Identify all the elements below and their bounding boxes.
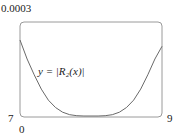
x-min-label: 7 <box>8 113 14 124</box>
x-max-label: 9 <box>167 113 173 124</box>
chart-plot <box>0 0 179 137</box>
y-max-label: 0.0003 <box>1 3 31 14</box>
y-min-label: 0 <box>19 124 25 135</box>
remainder-curve <box>20 40 162 116</box>
curve-label: y = |R₂(x)| <box>38 66 85 77</box>
